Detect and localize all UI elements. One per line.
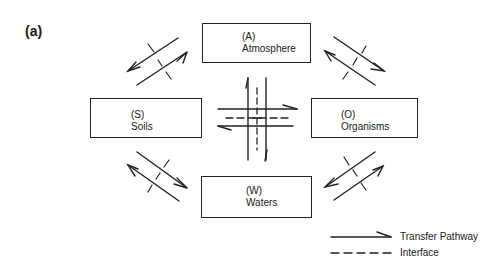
legend-transfer-pathway-icon — [331, 232, 391, 237]
interface-dash — [353, 58, 357, 65]
interface-dash — [166, 72, 171, 79]
interface-dash — [353, 170, 357, 176]
interface-dash — [362, 46, 366, 53]
pathway-soils-atmosphere — [128, 38, 187, 85]
interface-dash — [148, 185, 152, 192]
interface-dash — [148, 44, 154, 52]
pathway-soils-waters — [128, 152, 187, 201]
interface-dash — [343, 72, 348, 79]
pathway-atmosphere-organisms — [325, 37, 384, 85]
interface-dash — [158, 60, 162, 66]
pathway-atmosphere-waters — [246, 78, 267, 161]
interface-dash — [344, 157, 349, 165]
legend-interface-label: Interface — [400, 247, 439, 258]
legend-transfer-pathway-label: Transfer Pathway — [400, 231, 478, 242]
interface-dash — [361, 183, 366, 190]
interface-dash — [156, 173, 160, 179]
pathway-waters-organisms — [325, 152, 383, 200]
interface-dash — [164, 160, 169, 167]
